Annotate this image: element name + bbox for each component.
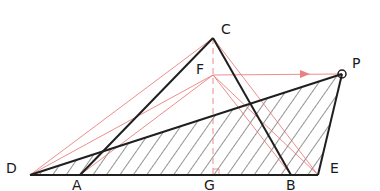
label-C: C [221, 22, 231, 36]
arrow-head-icon [300, 70, 310, 78]
diagram-svg [0, 0, 380, 191]
label-A: A [72, 178, 82, 191]
label-G: G [204, 178, 215, 191]
geometry-diagram: C F P D A G B E [0, 0, 380, 191]
label-B: B [286, 178, 296, 191]
label-P: P [352, 56, 360, 70]
label-D: D [6, 161, 17, 175]
label-E: E [330, 161, 339, 175]
label-F: F [196, 62, 204, 76]
